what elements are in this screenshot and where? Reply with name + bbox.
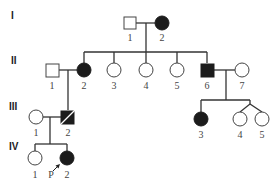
individual-number-ii-4: 4 [144,80,149,91]
proband-label: P [48,169,54,180]
individual-number-ii-7: 7 [240,80,245,91]
female-unaffected-ii-5 [170,63,184,77]
female-unaffected-iii-1 [29,110,43,124]
female-affected-iii-3 [194,112,208,126]
female-unaffected-iv-1 [28,151,42,165]
male-unaffected-ii-1 [46,64,59,77]
female-unaffected-ii-3 [107,63,121,77]
individual-number-i-1: 1 [128,32,133,43]
generation-label-iv: IV [9,141,19,152]
female-unaffected-ii-4 [139,63,153,77]
twin-branch-iii-5 [250,104,262,112]
female-affected-proband-iv-2 [60,151,74,165]
individual-number-iii-5: 5 [260,129,265,140]
male-affected-ii-6 [201,64,214,77]
individual-number-iii-3: 3 [199,129,204,140]
individual-number-iv-2: 2 [65,169,70,180]
female-affected-i-2 [155,16,169,30]
male-unaffected-i-1 [124,17,136,29]
female-unaffected-iii-5-twin [255,112,269,126]
individual-number-ii-6: 6 [205,80,210,91]
individual-number-iii-1: 1 [34,127,39,138]
individual-number-ii-2: 2 [82,80,87,91]
individual-number-iii-4: 4 [238,129,243,140]
individual-number-i-2: 2 [160,32,165,43]
proband-arrow-icon [53,164,60,171]
individual-number-ii-3: 3 [112,80,117,91]
individual-number-ii-5: 5 [175,80,180,91]
twin-branch-iii-4 [240,104,250,112]
female-unaffected-iii-4-twin [233,112,247,126]
generation-label-ii: II [11,55,17,66]
female-unaffected-ii-7 [235,63,249,77]
generation-label-iii: III [9,101,18,112]
individual-number-iv-1: 1 [33,169,38,180]
individual-number-ii-1: 1 [50,80,55,91]
individual-number-iii-2: 2 [66,127,71,138]
female-affected-ii-2 [77,63,91,77]
generation-label-i: I [11,10,14,21]
pedigree-chart: I II III IV 1 2 1 [0,0,279,192]
